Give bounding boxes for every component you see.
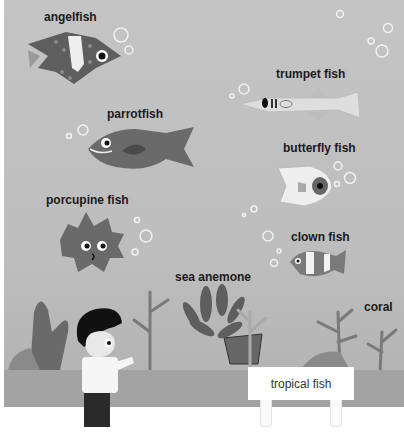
tropical-fish-sign: tropical fish xyxy=(248,367,354,400)
label-trumpet-fish: trumpet fish xyxy=(276,67,345,81)
sign-leg-left xyxy=(260,400,272,427)
butterfly-fish-icon xyxy=(270,162,340,212)
coral-icon xyxy=(0,252,404,372)
label-porcupine-fish: porcupine fish xyxy=(46,193,129,207)
aquarium-scene: angelfish trumpet fish parrotfish butter… xyxy=(0,0,404,435)
parrotfish-icon xyxy=(86,123,196,173)
label-butterfly-fish: butterfly fish xyxy=(283,141,356,155)
trumpet-fish-icon xyxy=(238,88,368,123)
sign-leg-right xyxy=(330,400,342,427)
label-clown-fish: clown fish xyxy=(291,230,350,244)
angelfish-icon xyxy=(26,28,126,88)
boy-icon xyxy=(68,305,138,430)
label-parrotfish: parrotfish xyxy=(107,107,163,121)
label-angelfish: angelfish xyxy=(44,10,97,24)
